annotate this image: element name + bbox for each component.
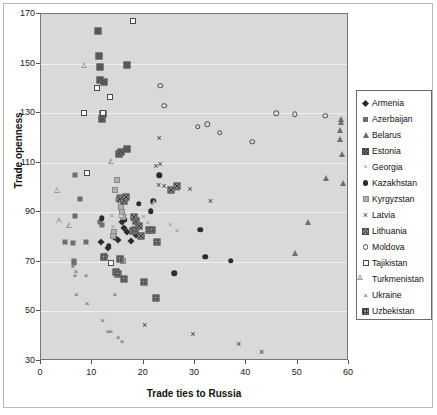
legend-item-label: Belarus	[372, 130, 401, 140]
data-point-azerbaijan	[73, 214, 78, 219]
data-point-georgia: ×	[110, 224, 116, 230]
x-tick-label: 0	[37, 367, 42, 377]
legend-item-label: Kazakhstan	[372, 178, 417, 188]
y-tick-label: 170	[20, 8, 35, 18]
legend-marker-open-triangle-icon	[360, 274, 371, 285]
data-point-ukraine: ×	[111, 291, 118, 298]
data-point-latvia: ×	[258, 348, 266, 356]
data-point-ukraine: ×	[83, 272, 90, 279]
x-tick-mark	[194, 360, 195, 364]
legend-item-georgia[interactable]: ×Georgia	[360, 159, 429, 175]
data-point-uzbekistan	[100, 253, 107, 260]
data-point-latvia: ×	[160, 182, 168, 190]
legend-item-moldova[interactable]: Moldova	[360, 239, 429, 255]
data-point-georgia: ×	[174, 228, 180, 234]
data-point-uzbekistan	[148, 226, 155, 233]
x-tick-label: 30	[189, 367, 199, 377]
legend-item-label: Uzbekistan	[372, 306, 415, 316]
data-point-armenia	[119, 219, 126, 226]
x-axis-title: Trade ties to Russia	[40, 388, 348, 399]
legend-item-uzbekistan[interactable]: Uzbekistan	[360, 303, 429, 319]
data-point-kazakhstan	[99, 216, 105, 222]
legend-item-label: Ukraine	[372, 290, 402, 300]
data-point-latvia: ×	[206, 197, 214, 205]
legend-item-kazakhstan[interactable]: Kazakhstan	[360, 175, 429, 191]
legend-marker-thin-x-icon: ×	[360, 290, 371, 301]
data-point-uzbekistan	[132, 226, 139, 233]
data-point-belarus	[340, 180, 346, 186]
marker-thin-x: ×	[362, 292, 369, 299]
data-point-lithuania	[167, 186, 174, 193]
data-point-moldova	[205, 122, 211, 128]
legend-item-tajikistan[interactable]: Tajikistan	[360, 255, 429, 271]
y-tick-label: 130	[20, 107, 35, 117]
data-point-latvia: ×	[155, 134, 163, 142]
data-point-moldova	[161, 103, 167, 109]
y-tick-label: 70	[25, 256, 35, 266]
data-point-kyrgyzstan	[117, 194, 123, 200]
data-point-kazakhstan	[151, 198, 157, 204]
data-point-latvia: ×	[189, 330, 197, 338]
data-point-armenia	[121, 225, 128, 232]
y-tick-label: 110	[21, 157, 35, 167]
data-point-moldova	[217, 130, 223, 136]
data-point-belarus	[338, 119, 344, 125]
y-tick-label: 50	[25, 305, 35, 315]
legend-marker-grid-square-icon	[360, 306, 371, 317]
data-point-latvia: ×	[141, 321, 149, 329]
marker-open-triangle	[363, 276, 369, 282]
data-point-ukraine: ×	[104, 328, 111, 335]
data-point-kazakhstan	[122, 217, 128, 223]
data-point-latvia: ×	[156, 160, 164, 168]
legend-marker-filled-triangle-icon	[360, 130, 371, 141]
gridline	[41, 163, 347, 164]
data-point-lithuania	[131, 214, 138, 221]
legend-marker-cross-square-icon	[360, 226, 371, 237]
legend-item-armenia[interactable]: Armenia	[360, 95, 429, 111]
legend-item-label: Tajikistan	[372, 258, 407, 268]
data-point-turkmenistan	[152, 199, 158, 205]
data-point-estonia	[116, 151, 123, 158]
legend-item-turkmenistan[interactable]: Turkmenistan	[360, 271, 429, 287]
legend-marker-x-icon: ×	[360, 210, 371, 221]
data-point-latvia: ×	[235, 340, 243, 348]
data-point-belarus	[323, 175, 329, 181]
data-point-uzbekistan	[112, 268, 119, 275]
data-point-kazakhstan	[106, 243, 112, 249]
data-point-lithuania	[145, 226, 152, 233]
legend-item-estonia[interactable]: Estonia	[360, 143, 429, 159]
marker-filled-circle	[363, 180, 369, 186]
x-tick-mark	[91, 360, 92, 364]
marker-light-square	[363, 196, 369, 202]
marker-hatch-square	[362, 148, 369, 155]
legend-item-kyrgyzstan[interactable]: Kyrgyzstan	[360, 191, 429, 207]
data-point-tajikistan	[130, 18, 136, 24]
data-point-ukraine: ×	[71, 272, 78, 279]
data-point-estonia	[96, 53, 103, 60]
legend-item-ukraine[interactable]: ×Ukraine	[360, 287, 429, 303]
data-point-lithuania	[137, 232, 144, 239]
marker-filled-diamond	[362, 99, 369, 106]
data-point-lithuania	[123, 194, 130, 201]
data-point-kyrgyzstan	[111, 229, 117, 235]
data-point-lithuania	[130, 227, 137, 234]
x-tick-mark	[40, 360, 41, 364]
legend-item-azerbaijan[interactable]: Azerbaijan	[360, 111, 429, 127]
data-point-estonia	[123, 61, 130, 68]
data-point-ukraine: ×	[69, 262, 76, 269]
marker-open-square	[363, 260, 369, 266]
legend-item-latvia[interactable]: ×Latvia	[360, 207, 429, 223]
data-point-belarus	[292, 250, 298, 256]
data-point-belarus	[337, 136, 343, 142]
data-point-armenia	[124, 229, 131, 236]
data-point-estonia	[99, 116, 106, 123]
legend-item-belarus[interactable]: Belarus	[360, 127, 429, 143]
data-point-moldova	[250, 139, 256, 145]
legend-item-label: Azerbaijan	[372, 114, 413, 124]
data-point-kyrgyzstan	[120, 214, 126, 220]
data-point-georgia: ×	[167, 222, 173, 228]
legend-item-label: Georgia	[372, 162, 403, 172]
legend-item-lithuania[interactable]: Lithuania	[360, 223, 429, 239]
x-tick-label: 10	[86, 367, 96, 377]
plot-area: ××××××××××××××××××××××××××××××××××	[40, 13, 348, 360]
